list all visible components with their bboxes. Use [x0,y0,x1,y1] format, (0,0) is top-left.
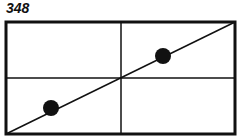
diagram-canvas [0,0,241,137]
point-upper-right [155,48,171,64]
point-lower-left [43,100,59,116]
